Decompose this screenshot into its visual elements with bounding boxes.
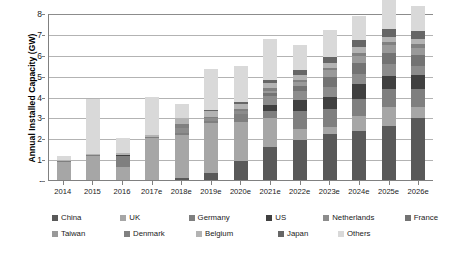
legend-item-japan[interactable]: Japan — [278, 230, 334, 238]
bar-segment — [293, 45, 307, 70]
x-tick-mark — [359, 181, 360, 185]
bar-segment — [175, 135, 189, 178]
bar-slot — [49, 14, 79, 180]
legend-item-uk[interactable]: UK — [120, 214, 184, 222]
bar-slot — [315, 14, 345, 180]
y-tick-label: 5 — [24, 72, 42, 81]
bar-slot — [403, 14, 433, 180]
stacked-bar[interactable] — [116, 138, 130, 180]
bar-segment — [382, 0, 396, 29]
bar-segment — [411, 6, 425, 31]
bar-segment — [411, 66, 425, 74]
bar-segment — [57, 162, 71, 180]
bar-slot — [344, 14, 374, 180]
legend-item-china[interactable]: China — [52, 214, 116, 222]
bar-segment — [411, 55, 425, 66]
y-tick-mark — [42, 98, 45, 99]
legend-item-taiwan[interactable]: Taiwan — [52, 230, 120, 238]
y-tick-mark — [42, 77, 45, 78]
x-tick-mark — [270, 181, 271, 185]
legend-swatch-icon — [52, 231, 58, 237]
stacked-bar[interactable] — [352, 16, 366, 180]
bar-segment — [382, 89, 396, 107]
bar-segment — [411, 118, 425, 180]
x-tick-mark — [329, 181, 330, 185]
bar-slot — [79, 14, 109, 180]
bar-segment — [116, 138, 130, 153]
stacked-bar[interactable] — [175, 104, 189, 180]
y-tick-mark — [42, 56, 45, 57]
stacked-bar[interactable] — [86, 99, 100, 180]
bar-slot — [256, 14, 286, 180]
bar-segment — [411, 31, 425, 39]
legend-item-denmark[interactable]: Denmark — [124, 230, 192, 238]
legend-item-belgium[interactable]: Belgium — [196, 230, 274, 238]
x-tick-label: 2020e — [226, 187, 256, 196]
bar-segment — [86, 99, 100, 154]
chart-container: Annual Installed Capacity (GW) -12345678… — [0, 0, 451, 263]
y-axis-ticks: -12345678 — [24, 14, 42, 181]
legend-swatch-icon — [196, 231, 202, 237]
x-tick-mark — [181, 181, 182, 185]
stacked-bar[interactable] — [411, 6, 425, 180]
bar-segment — [323, 77, 337, 87]
stacked-bar[interactable] — [263, 39, 277, 180]
bar-segment — [323, 127, 337, 134]
x-tick-label: 2016 — [107, 187, 137, 196]
bar-segment — [234, 161, 248, 180]
bar-slot — [138, 14, 168, 180]
bar-group — [49, 14, 433, 180]
legend-item-germany[interactable]: Germany — [189, 214, 263, 222]
bar-segment — [382, 29, 396, 37]
legend-row: ChinaUKGermanyUSNetherlandsFrance — [52, 210, 442, 226]
bar-segment — [204, 173, 218, 180]
bar-segment — [382, 126, 396, 180]
bar-segment — [352, 84, 366, 99]
legend-item-others[interactable]: Others — [338, 230, 370, 238]
x-tick-label: 2026e — [403, 187, 433, 196]
x-tick-mark — [152, 181, 153, 185]
x-tick-mark — [63, 181, 64, 185]
stacked-bar[interactable] — [323, 30, 337, 180]
bar-segment — [411, 89, 425, 107]
y-tick-mark — [42, 181, 45, 182]
y-tick-label: 6 — [24, 52, 42, 61]
bar-segment — [352, 63, 366, 73]
legend-item-us[interactable]: US — [266, 214, 319, 222]
bar-segment — [175, 178, 189, 180]
bar-segment — [411, 75, 425, 90]
bar-slot — [197, 14, 227, 180]
bar-segment — [352, 56, 366, 63]
stacked-bar[interactable] — [234, 66, 248, 180]
y-tick-mark — [42, 35, 45, 36]
legend-swatch-icon — [120, 215, 126, 221]
x-tick-label: 2015 — [78, 187, 108, 196]
x-tick-label: 2019e — [196, 187, 226, 196]
bar-segment — [234, 66, 248, 101]
legend-item-france[interactable]: France — [405, 214, 438, 222]
legend-swatch-icon — [278, 231, 284, 237]
legend-swatch-icon — [189, 215, 195, 221]
y-tick-mark — [42, 14, 45, 15]
stacked-bar[interactable] — [57, 156, 71, 180]
x-tick-label: 2014 — [48, 187, 78, 196]
legend-label: Denmark — [133, 230, 165, 238]
x-tick-label: 2023e — [314, 187, 344, 196]
legend-label: Taiwan — [61, 230, 85, 238]
bar-segment — [411, 107, 425, 118]
stacked-bar[interactable] — [293, 45, 307, 180]
legend-swatch-icon — [52, 215, 58, 221]
legend-item-netherlands[interactable]: Netherlands — [323, 214, 401, 222]
stacked-bar[interactable] — [382, 0, 396, 180]
bar-slot — [374, 14, 404, 180]
stacked-bar[interactable] — [204, 69, 218, 180]
chart-legend: ChinaUKGermanyUSNetherlandsFranceTaiwanD… — [52, 210, 442, 242]
bar-segment — [323, 30, 337, 57]
bar-segment — [352, 99, 366, 117]
legend-label: Germany — [198, 214, 230, 222]
bar-segment — [411, 48, 425, 55]
plot-area — [48, 14, 433, 181]
legend-row: TaiwanDenmarkBelgiumJapanOthers — [52, 226, 442, 242]
stacked-bar[interactable] — [145, 97, 159, 180]
y-tick-label: 2 — [24, 135, 42, 144]
